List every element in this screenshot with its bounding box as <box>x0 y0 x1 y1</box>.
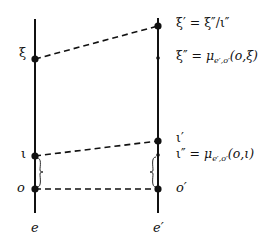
point-iota-dprime <box>156 153 160 157</box>
point-iota <box>31 152 38 159</box>
label-worldline-e: e <box>31 221 39 234</box>
equation-xi-prime: ξ′ = ξ″/ι″ <box>176 17 230 30</box>
eq-mu: μ <box>206 48 214 63</box>
equation-iota-dprime: ι″ = μe′,o′(o,ι) <box>176 148 254 163</box>
eq-rel: = <box>186 15 204 30</box>
equation-xi-dprime: ξ″ = μe′,o′(o,ξ) <box>176 50 258 65</box>
eq-mu: μ <box>204 146 212 161</box>
point-xi <box>31 55 38 62</box>
label-o: o <box>17 181 25 194</box>
eq-args: (o,ι) <box>228 146 254 161</box>
point-o <box>31 185 38 192</box>
dashed-iota-to-iota-prime <box>35 141 158 156</box>
eq-lhs: ξ″ <box>176 48 188 63</box>
eq-lhs: ξ′ <box>176 15 186 30</box>
eq-rel: = <box>186 146 204 161</box>
point-iota-prime <box>154 137 161 144</box>
brace-right-icon <box>150 157 156 187</box>
eq-args: (o,ξ) <box>230 48 258 63</box>
label-iota-prime: ι′ <box>176 132 184 145</box>
point-xi-dprime <box>156 56 160 60</box>
dashed-xi-to-xi-prime <box>35 26 158 59</box>
label-worldline-e-prime: e′ <box>153 221 164 234</box>
eq-rhs: ξ″/ι″ <box>204 15 229 30</box>
eq-lhs: ι″ <box>176 146 186 161</box>
worldline-diagram: ξ ι o ξ′ = ξ″/ι″ ξ″ = μe′,o′(o,ξ) ι′ ι″ … <box>0 0 273 242</box>
diagram-canvas <box>0 0 273 242</box>
eq-subscript: e′,o′ <box>214 56 230 65</box>
point-xi-prime <box>154 22 161 29</box>
eq-subscript: e′,o′ <box>212 154 228 163</box>
brace-left-icon <box>37 158 43 187</box>
eq-rel: = <box>188 48 206 63</box>
label-xi: ξ <box>19 46 26 59</box>
label-o-prime: o′ <box>176 181 187 194</box>
point-o-prime <box>154 185 161 192</box>
label-iota: ι <box>21 147 26 160</box>
